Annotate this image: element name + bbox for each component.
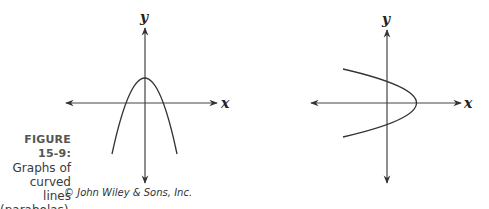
graph-horizontal-parabola: x y — [311, 11, 473, 183]
parabola-graphs: x y x y — [0, 0, 489, 209]
x-axis-label: x — [220, 95, 230, 111]
y-axis-label: y — [139, 9, 149, 25]
x-axis-label: x — [463, 95, 473, 111]
y-axis-label: y — [381, 11, 391, 27]
graph-vertical-parabola: x y — [66, 9, 230, 183]
